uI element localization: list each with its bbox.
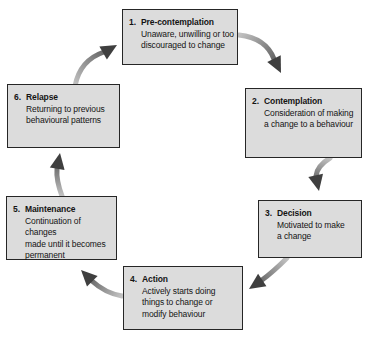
stage-title: Relapse: [26, 92, 58, 104]
stage-box-action: 4. Action Actively starts doing things t…: [123, 266, 243, 330]
arrow-maintenance-to-relapse-icon: [50, 152, 68, 196]
arrow-relapse-to-precontemplation-icon: [75, 39, 121, 86]
stage-heading: 4. Action: [130, 274, 239, 286]
stage-number: 1.: [129, 17, 141, 29]
stage-box-maintenance: 5. Maintenance Continuation of changes m…: [6, 196, 117, 260]
stage-heading: 1. Pre-contemplation: [129, 17, 234, 29]
stage-number: 6.: [14, 92, 26, 104]
stage-description: Motivated to make a change: [277, 220, 358, 243]
stage-title: Decision: [277, 208, 312, 220]
stage-heading: 6. Relapse: [14, 92, 116, 104]
stage-heading: 3. Decision: [265, 208, 358, 220]
stage-box-relapse: 6. Relapse Returning to previous behavio…: [7, 84, 120, 148]
arrow-action-to-maintenance-icon: [76, 265, 122, 296]
stage-title: Contemplation: [264, 96, 322, 108]
stage-number: 3.: [265, 208, 277, 220]
stage-number: 2.: [252, 96, 264, 108]
arrow-decision-to-action-icon: [245, 258, 287, 295]
stage-box-precontemplation: 1. Pre-contemplation Unaware, unwilling …: [122, 9, 238, 65]
stage-number: 4.: [130, 274, 142, 286]
stage-title: Pre-contemplation: [141, 17, 214, 29]
arrow-precontemplation-to-contemplation-icon: [239, 35, 288, 76]
stage-heading: 2. Contemplation: [252, 96, 358, 108]
stage-description: Continuation of changes made until it be…: [25, 216, 113, 262]
stage-title: Maintenance: [25, 204, 75, 216]
stage-box-decision: 3. Decision Motivated to make a change: [258, 200, 362, 258]
stage-heading: 5. Maintenance: [13, 204, 113, 216]
stage-description: Unaware, unwilling or too discouraged to…: [141, 29, 234, 52]
stage-description: Actively starts doing things to change o…: [142, 286, 239, 321]
stage-description: Returning to previous behavioural patter…: [26, 104, 116, 127]
diagram-canvas: 1. Pre-contemplation Unaware, unwilling …: [0, 0, 370, 337]
arrow-contemplation-to-decision-icon: [308, 158, 330, 193]
stage-box-contemplation: 2. Contemplation Consideration of making…: [245, 88, 362, 158]
stage-number: 5.: [13, 204, 25, 216]
stage-title: Action: [142, 274, 168, 286]
stage-description: Consideration of making a change to a be…: [264, 108, 358, 131]
